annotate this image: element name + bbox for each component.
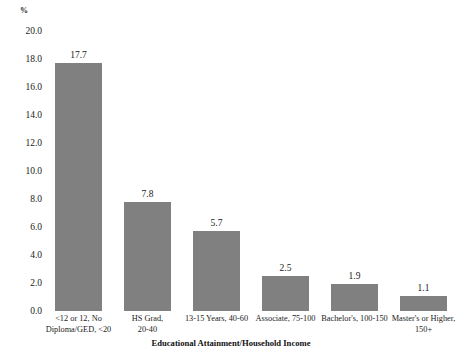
bar-slot: 1.9 — [320, 31, 389, 311]
bar-slot: 5.7 — [182, 31, 251, 311]
bar-value-label: 1.9 — [320, 271, 389, 282]
bar-slot: 17.7 — [44, 31, 113, 311]
bar[interactable] — [55, 63, 102, 311]
y-tick-label: 6.0 — [8, 222, 42, 232]
bar[interactable] — [262, 276, 309, 311]
x-category-label-line: Master's or Higher, — [377, 314, 462, 325]
x-category-label: Master's or Higher,150+ — [377, 314, 462, 335]
bar-slot: 1.1 — [389, 31, 458, 311]
y-tick-label: 4.0 — [8, 250, 42, 260]
bar-slot: 2.5 — [251, 31, 320, 311]
bar[interactable] — [400, 296, 447, 311]
bar[interactable] — [193, 231, 240, 311]
bar-value-label: 2.5 — [251, 263, 320, 274]
bar[interactable] — [124, 202, 171, 311]
plot-area: 17.77.85.72.51.91.1 — [44, 31, 458, 311]
y-axis-title: % — [20, 6, 28, 16]
bar-value-label: 17.7 — [44, 50, 113, 61]
x-category-label-line: 20-40 — [101, 325, 194, 336]
y-tick-label: 16.0 — [8, 82, 42, 92]
y-tick-label: 18.0 — [8, 54, 42, 64]
bar-value-label: 7.8 — [113, 189, 182, 200]
y-tick-label: 12.0 — [8, 138, 42, 148]
x-axis-title: Educational Attainment/Household Income — [0, 338, 462, 349]
bar[interactable] — [331, 284, 378, 311]
x-category-label-line: 150+ — [377, 325, 462, 336]
bar-value-label: 1.1 — [389, 283, 458, 294]
bar-slot: 7.8 — [113, 31, 182, 311]
bar-chart: % 17.77.85.72.51.91.1 <12 or 12, NoDiplo… — [0, 0, 462, 358]
y-tick-label: 20.0 — [8, 26, 42, 36]
y-tick-label: 10.0 — [8, 166, 42, 176]
bar-value-label: 5.7 — [182, 218, 251, 229]
y-tick-label: 8.0 — [8, 194, 42, 204]
y-tick-label: 2.0 — [8, 278, 42, 288]
y-tick-label: 14.0 — [8, 110, 42, 120]
y-tick-label: 0.0 — [8, 306, 42, 316]
